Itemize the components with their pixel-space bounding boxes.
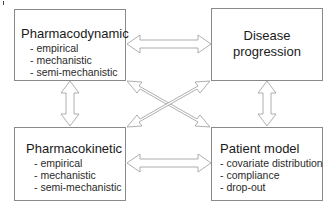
list-item: - mechanistic	[34, 169, 122, 181]
pharmacodynamic-items: - empirical - mechanistic - semi-mechani…	[30, 42, 118, 78]
disease-progression-box: Disease progression	[211, 8, 323, 81]
list-item: - covariate distribution	[220, 157, 323, 169]
pharmacokinetic-items: - empirical - mechanistic - semi-mechani…	[34, 157, 122, 193]
list-item: - semi-mechanistic	[34, 181, 122, 193]
arrow-pk-pm	[127, 154, 211, 172]
arrow-pd-dp	[127, 35, 211, 53]
arrow-dp-pm	[258, 81, 276, 126]
list-item: - semi-mechanistic	[30, 66, 118, 78]
list-item: - mechanistic	[30, 54, 118, 66]
list-item: - empirical	[30, 42, 118, 54]
patient-model-items: - covariate distribution - compliance - …	[220, 157, 323, 193]
list-item: - compliance	[220, 169, 323, 181]
pharmacodynamic-title: Pharmacodynamic	[21, 26, 129, 41]
pharmacokinetic-box: Pharmacokinetic - empirical - mechanisti…	[14, 127, 126, 201]
disease-progression-title: Disease progression	[212, 28, 322, 60]
arrow-pd-pk	[61, 81, 79, 126]
list-item: - drop-out	[220, 181, 323, 193]
pharmacokinetic-title: Pharmacokinetic	[26, 141, 122, 156]
patient-model-title: Patient model	[220, 141, 300, 156]
pharmacodynamic-box: Pharmacodynamic - empirical - mechanisti…	[14, 9, 126, 81]
patient-model-box: Patient model - covariate distribution -…	[211, 127, 323, 201]
list-item: - empirical	[34, 157, 122, 169]
